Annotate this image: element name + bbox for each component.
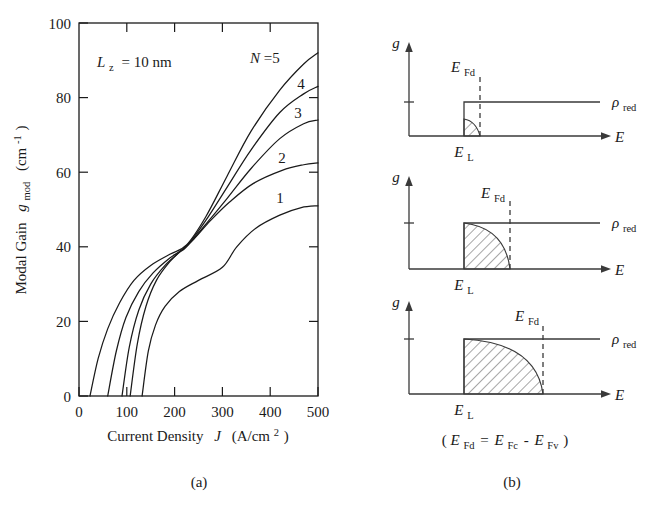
y-axis-title-symbol: g: [13, 204, 29, 212]
y-tick-label-3: 60: [56, 165, 71, 181]
x-axis-title-units-close: ): [284, 428, 289, 445]
x-axis-title-units: (A/cm: [232, 428, 271, 445]
density-label-bottom: ρ red: [611, 331, 637, 350]
level-label-top-sub: L: [467, 152, 473, 163]
panel-b-caption-equation: ( E Fd = E Fc - E Fv ): [442, 432, 568, 452]
x-axis-ticks-top: [127, 23, 270, 32]
gain-region-top: [464, 119, 480, 136]
panel-a-label: (a): [191, 474, 208, 491]
e-axis-label-top: E: [614, 129, 624, 145]
e-axis-label-middle: E: [614, 262, 624, 278]
fermi-label-middle: E Fd: [480, 185, 506, 204]
x-axis-title-symbol: J: [214, 428, 222, 444]
figure-root: 0 100 200 300 400 500 0 20 40 60 80 100 …: [0, 0, 661, 512]
fermi-label-bottom-sub: Fd: [528, 316, 540, 327]
level-label-middle-sym: E: [453, 277, 463, 293]
level-label-top: E L: [453, 144, 473, 163]
curve-series-4: [142, 206, 318, 396]
panel-b-label: (b): [503, 474, 521, 491]
y-axis-title-units: (cm: [13, 147, 30, 171]
y-tick-label-4: 80: [56, 90, 71, 106]
fermi-label-bottom: E Fd: [514, 308, 540, 327]
curve-label-n2: 2: [278, 150, 286, 166]
level-label-bottom: E L: [453, 402, 473, 421]
density-label-middle: ρ red: [611, 215, 637, 234]
caption-sym-1: E: [450, 432, 460, 448]
density-label-top-sym: ρ: [611, 94, 619, 110]
x-tick-label-3: 300: [211, 404, 234, 420]
caption-sym-2: E: [494, 432, 504, 448]
caption-close: ): [563, 432, 568, 449]
annotation-well-width: L z = 10 nm: [96, 54, 172, 74]
y-axis-ticks: [79, 23, 88, 396]
curve-series-3: [130, 163, 318, 396]
curve-label-n5-suffix: =5: [264, 50, 280, 66]
e-axis-label-bottom: E: [614, 387, 624, 403]
curve-label-n5: N =5: [249, 50, 280, 66]
caption-sub-3: Fv: [547, 440, 559, 451]
fermi-label-top: E Fd: [450, 59, 476, 78]
y-axis-title-units-close: ): [13, 125, 30, 130]
level-label-top-sym: E: [453, 144, 463, 160]
y-axis-title-symbol-sub: mod: [21, 181, 32, 200]
curve-label-n5-prefix: N: [249, 50, 261, 66]
x-tick-label-4: 400: [259, 404, 282, 420]
density-label-bottom-sub: red: [623, 339, 637, 350]
g-axis-label-middle: g: [392, 169, 400, 185]
level-label-bottom-sym: E: [453, 402, 463, 418]
y-tick-label-1: 20: [56, 314, 71, 330]
rho-step-top: [464, 102, 600, 136]
x-tick-label-5: 500: [307, 404, 330, 420]
density-label-middle-sub: red: [623, 223, 637, 234]
data-curves: [90, 53, 318, 396]
x-tick-label-0: 0: [75, 404, 83, 420]
level-label-middle-sub: L: [467, 285, 473, 296]
density-label-middle-sym: ρ: [611, 215, 619, 231]
x-axis-title-units-sup: 2: [274, 427, 279, 438]
panel-a-chart: 0 100 200 300 400 500 0 20 40 60 80 100 …: [8, 16, 329, 492]
density-label-bottom-sym: ρ: [611, 331, 619, 347]
density-label-top: ρ red: [611, 94, 637, 113]
annotation-text: = 10 nm: [122, 54, 172, 70]
y-axis-ticks-right: [309, 98, 318, 322]
x-axis-ticks: [79, 387, 318, 396]
level-label-middle: E L: [453, 277, 473, 296]
curve-label-n3: 3: [294, 105, 302, 121]
fermi-label-middle-sub: Fd: [494, 193, 506, 204]
fermi-label-bottom-sym: E: [514, 308, 524, 324]
gain-region-middle: [464, 223, 510, 269]
panel-b-diagram-bottom: g E E Fd E L ρ red: [392, 294, 637, 421]
y-tick-label-0: 0: [64, 389, 72, 405]
fermi-label-top-sub: Fd: [464, 67, 476, 78]
panel-b-diagram-middle: g E E Fd E L ρ red: [392, 169, 637, 296]
y-axis-title-units-sup: -1: [12, 135, 23, 144]
gain-region-bottom: [464, 339, 543, 394]
caption-sub-1: Fd: [463, 440, 475, 451]
y-axis-title: Modal Gain g mod (cm -1 ): [8, 125, 33, 294]
y-tick-label-2: 40: [56, 239, 71, 255]
caption-sub-2: Fc: [507, 440, 518, 451]
g-axis-label-bottom: g: [392, 294, 400, 310]
curve-series-2: [122, 120, 318, 396]
annotation-symbol: L: [96, 54, 105, 70]
caption-minus: -: [524, 432, 529, 448]
level-label-bottom-sub: L: [467, 410, 473, 421]
fermi-label-middle-sym: E: [480, 185, 490, 201]
y-tick-label-5: 100: [49, 16, 72, 32]
x-tick-label-2: 200: [163, 404, 186, 420]
curve-label-n1: 1: [276, 190, 284, 206]
panel-b-diagram-top: g E E Fd E L ρ red: [392, 35, 637, 163]
x-axis-title-text: Current Density: [107, 428, 204, 444]
curve-label-n4: 4: [297, 76, 305, 92]
density-label-top-sub: red: [623, 102, 637, 113]
plot-frame: [79, 23, 318, 396]
caption-sym-3: E: [533, 432, 543, 448]
caption-open: (: [442, 432, 447, 449]
caption-eq: =: [480, 432, 488, 448]
x-tick-label-1: 100: [116, 404, 139, 420]
curve-series-0: [90, 53, 318, 396]
figure-svg: 0 100 200 300 400 500 0 20 40 60 80 100 …: [0, 0, 661, 512]
fermi-label-top-sym: E: [450, 59, 460, 75]
annotation-symbol-sub: z: [109, 62, 114, 73]
g-axis-label-top: g: [392, 35, 400, 51]
